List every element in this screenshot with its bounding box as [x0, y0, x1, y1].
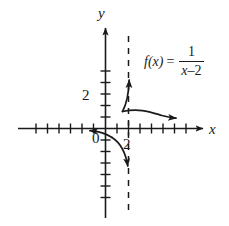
curve-right-branch: [123, 110, 177, 118]
x-tick-label-2: 2: [123, 137, 131, 152]
y-axis: [101, 28, 111, 218]
fraction: 1 x–2: [179, 44, 203, 79]
fraction-numerator: 1: [184, 44, 199, 61]
origin-label: 0: [92, 131, 100, 146]
denominator-operator: –: [188, 63, 195, 78]
y-axis-label: y: [98, 6, 105, 21]
curve-right-branch-up: [123, 80, 130, 112]
equals-sign: =: [166, 54, 174, 70]
x-axis: [18, 122, 203, 136]
denominator-constant: 2: [195, 63, 202, 78]
function-name: f(x): [144, 54, 163, 70]
fraction-denominator: x–2: [179, 62, 203, 79]
graph-figure: y x 2 2 0 f(x) = 1 x–2: [0, 0, 229, 226]
function-equation: f(x) = 1 x–2: [144, 44, 204, 79]
y-tick-label-2: 2: [82, 88, 90, 103]
graph-canvas: [0, 0, 229, 226]
x-axis-label: x: [209, 122, 216, 137]
